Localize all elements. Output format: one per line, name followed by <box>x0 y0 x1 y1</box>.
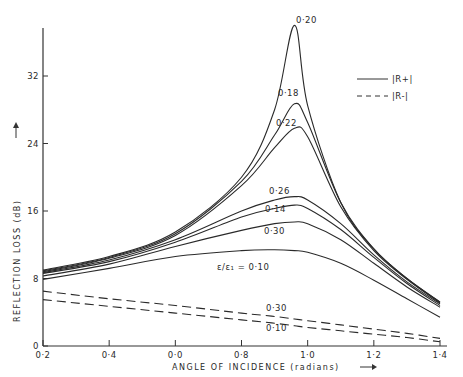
curve-label: 0·10 <box>266 323 287 333</box>
curve-label: 0·26 <box>269 186 290 196</box>
curve-label: ε/ε₁ = 0·10 <box>217 262 269 272</box>
y-tick-label: 32 <box>27 71 39 81</box>
series-curve <box>43 291 440 338</box>
curve-label: 0·22 <box>276 118 297 128</box>
series-curve <box>43 300 440 342</box>
legend-label: |R+| <box>392 74 413 84</box>
x-axis-label: ANGLE OF INCIDENCE (radians) <box>172 363 340 372</box>
curve-labels: 0·200·180·220·260·140·30ε/ε₁ = 0·100·300… <box>217 15 317 333</box>
y-tick-label: 8 <box>33 274 39 284</box>
y-tick-label: 24 <box>27 139 39 149</box>
series-curve <box>43 103 440 302</box>
y-tick-label: 16 <box>27 206 39 216</box>
x-tick-label: 0·2 <box>35 350 50 360</box>
curve-label: 0·14 <box>265 204 286 214</box>
curve-label: 0·20 <box>296 15 317 25</box>
reflection-loss-chart: 081624320·20·40·00·81·01·21·4ANGLE OF IN… <box>0 0 463 377</box>
x-tick-label: 1·2 <box>366 350 381 360</box>
legend: |R+||R-| <box>357 74 413 101</box>
x-tick-label: 0·8 <box>234 350 249 360</box>
x-tick-label: 0·4 <box>102 350 117 360</box>
y-axis-label: REFLECTION LOSS (dB) <box>13 200 22 322</box>
series-curve <box>43 127 440 303</box>
x-tick-label: 1·4 <box>432 350 447 360</box>
curve-label: 0·18 <box>278 88 299 98</box>
x-tick-label: 0·0 <box>168 350 183 360</box>
curve-label: 0·30 <box>264 226 285 236</box>
curve-label: 0·30 <box>266 303 287 313</box>
x-tick-label: 1·0 <box>300 350 315 360</box>
legend-label: |R-| <box>392 91 408 101</box>
axes: 081624320·20·40·00·81·01·21·4ANGLE OF IN… <box>13 28 448 372</box>
curves <box>43 25 440 341</box>
